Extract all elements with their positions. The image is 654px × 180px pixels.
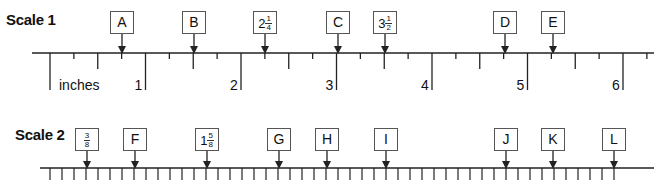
marker-box-e: E bbox=[541, 11, 565, 34]
marker-box-l: L bbox=[602, 128, 626, 151]
fraction: 38 bbox=[84, 132, 90, 149]
fraction: 14 bbox=[265, 15, 271, 32]
marker-box-f: F bbox=[123, 128, 147, 151]
inch-label-5: 5 bbox=[517, 77, 525, 93]
fraction: 58 bbox=[207, 132, 213, 149]
inch-label-6: 6 bbox=[612, 77, 620, 93]
marker-box-3-8: 38 bbox=[75, 128, 99, 151]
denominator: 8 bbox=[207, 141, 213, 149]
whole-number: 3 bbox=[378, 16, 385, 31]
marker-box-1-5-8: 158 bbox=[195, 128, 219, 151]
marker-box-d: D bbox=[493, 11, 517, 34]
inch-label-1: 1 bbox=[135, 77, 143, 93]
denominator: 8 bbox=[84, 141, 90, 149]
marker-box-a: A bbox=[110, 11, 134, 34]
marker-box-b: B bbox=[182, 11, 206, 34]
inch-label-4: 4 bbox=[421, 77, 429, 93]
inch-label-2: 2 bbox=[230, 77, 238, 93]
denominator: 2 bbox=[385, 24, 391, 32]
unit-label: inches bbox=[59, 77, 99, 93]
marker-box-3-1-2: 312 bbox=[373, 11, 397, 34]
marker-box-2-1-4: 214 bbox=[253, 11, 277, 34]
whole-number: 2 bbox=[258, 16, 265, 31]
marker-box-c: C bbox=[326, 11, 350, 34]
marker-box-j: J bbox=[494, 128, 518, 151]
fraction: 12 bbox=[385, 15, 391, 32]
marker-box-g: G bbox=[267, 128, 291, 151]
marker-box-h: H bbox=[315, 128, 339, 151]
inch-label-3: 3 bbox=[326, 77, 334, 93]
marker-box-k: K bbox=[541, 128, 565, 151]
marker-box-i: I bbox=[374, 128, 398, 151]
whole-number: 1 bbox=[200, 133, 207, 148]
denominator: 4 bbox=[265, 24, 271, 32]
